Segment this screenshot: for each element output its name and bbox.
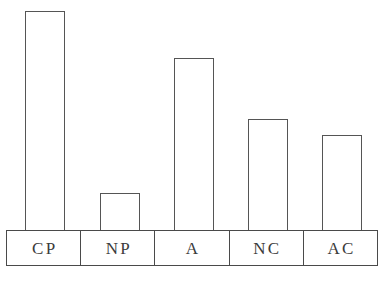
category-cell-cp: CP bbox=[7, 231, 81, 265]
bar-chart: CP NP A NC AC bbox=[0, 0, 386, 293]
category-label-a: A bbox=[184, 240, 201, 257]
bar-ac bbox=[322, 135, 362, 230]
bar-a bbox=[174, 58, 214, 230]
category-cell-ac: AC bbox=[304, 231, 377, 265]
plot-area bbox=[0, 0, 386, 230]
category-cell-nc: NC bbox=[230, 231, 304, 265]
category-label-np: NP bbox=[104, 240, 132, 257]
category-cell-np: NP bbox=[81, 231, 155, 265]
category-label-cp: CP bbox=[30, 240, 57, 257]
category-label-ac: AC bbox=[325, 240, 355, 257]
category-label-nc: NC bbox=[251, 240, 281, 257]
bar-nc bbox=[248, 119, 288, 230]
category-cell-a: A bbox=[155, 231, 229, 265]
bar-np bbox=[100, 193, 140, 230]
category-label-strip: CP NP A NC AC bbox=[6, 230, 378, 266]
bar-cp bbox=[25, 11, 65, 230]
